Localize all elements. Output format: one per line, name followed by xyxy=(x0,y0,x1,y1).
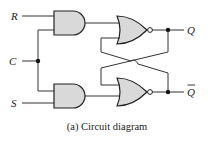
wire-c-bus xyxy=(38,30,54,91)
and-gate-bottom xyxy=(54,84,85,108)
junction-c xyxy=(36,59,40,63)
output-label-q-bar: Q xyxy=(187,86,195,98)
input-label-r: R xyxy=(10,10,18,22)
nor-top-bubble xyxy=(148,28,153,33)
and-gate-top xyxy=(54,11,85,35)
nor-bottom-bubble xyxy=(148,90,153,95)
input-label-c: C xyxy=(9,55,17,67)
input-label-s: S xyxy=(11,97,17,109)
nor-gate-bottom xyxy=(117,78,147,106)
circuit-diagram: R C S Q Q (a) Circuit diagram xyxy=(0,0,209,143)
output-label-q: Q xyxy=(187,24,195,36)
nor-gate-top xyxy=(117,16,147,44)
caption: (a) Circuit diagram xyxy=(67,121,147,133)
